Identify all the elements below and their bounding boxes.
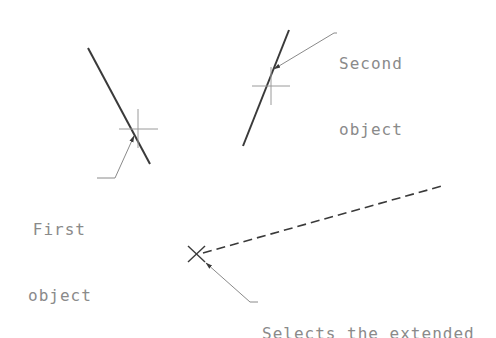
intersection-marker-icon xyxy=(188,246,205,262)
first-object-label-line2: object xyxy=(28,285,86,307)
second-object-label-line2: object xyxy=(339,119,403,141)
extended-intersection-label: Selects the extended intersection point xyxy=(262,279,475,338)
second-object-label: Second object xyxy=(339,9,403,163)
second-object-leader xyxy=(274,33,337,69)
extended-intersection-label-line1: Selects the extended xyxy=(262,323,475,338)
extended-intersection-leader xyxy=(206,263,258,302)
second-crosshair-icon xyxy=(252,67,290,105)
first-object-line xyxy=(88,48,150,164)
second-object-label-line1: Second xyxy=(339,53,403,75)
first-object-label-line1: First xyxy=(28,219,86,241)
first-object-label: First object xyxy=(28,175,86,329)
first-object-leader xyxy=(97,136,134,178)
second-object-line xyxy=(243,30,289,146)
extended-dashed-line xyxy=(203,186,442,253)
